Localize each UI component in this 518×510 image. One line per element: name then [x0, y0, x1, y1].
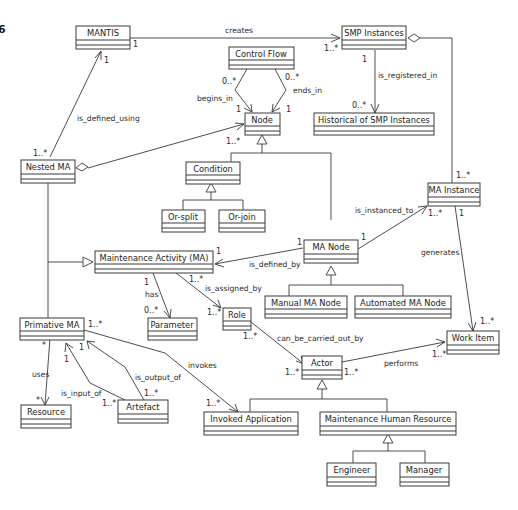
edge-gen-ma-node: [289, 285, 403, 296]
mult-defined-using-dst: 1: [104, 56, 109, 65]
class-name: Role: [228, 310, 246, 320]
label-is-output-of: is_output_of: [135, 373, 181, 382]
mult-nested-node-dst: 1..*: [226, 137, 240, 146]
edge-gen-condition: [183, 200, 243, 210]
label-can-be-carried-out-by: can_be_carried_out_by: [277, 334, 364, 343]
mult-generates-src: 1: [459, 209, 464, 218]
class-smp-instances[interactable]: SMP Instances: [342, 26, 406, 49]
mult-has-src: 1: [144, 278, 149, 287]
class-work-item[interactable]: Work Item: [447, 331, 499, 354]
class-maintenance-human-resource[interactable]: Maintenance Human Resource: [320, 412, 456, 435]
class-mantis[interactable]: MANTIS: [76, 26, 130, 49]
class-name: Manager: [406, 465, 443, 475]
mult-creates-dst: 1..*: [324, 44, 338, 53]
label-is-registered-in: is_registered_in: [378, 71, 437, 80]
class-automated-ma-node[interactable]: Automated MA Node: [355, 296, 451, 318]
class-name: Maintenance Activity (MA): [99, 253, 208, 263]
mult-invokes-dst: 1..*: [206, 399, 220, 408]
class-name: MANTIS: [87, 28, 119, 38]
class-primative-ma[interactable]: Primative MA: [20, 318, 84, 340]
class-nested-ma[interactable]: Nested MA: [21, 160, 75, 183]
class-artefact[interactable]: Artefact: [118, 400, 168, 423]
class-name: Condition: [193, 164, 233, 174]
label-is-defined-using: is_defined_using: [77, 114, 140, 123]
class-control-flow[interactable]: Control Flow: [229, 47, 294, 69]
mult-begins-dst: 1: [236, 105, 241, 114]
mult-instanced-dst: 1..*: [428, 209, 442, 218]
class-name: Control Flow: [235, 49, 287, 59]
arrowhead-is-defined-using: [95, 51, 101, 60]
mult-has-dst: 0..*: [144, 306, 158, 315]
uml-class-diagram: 6: [0, 0, 518, 510]
mult-output-dst: 1: [79, 343, 84, 352]
class-name: SMP Instances: [344, 28, 404, 38]
class-name: Node: [251, 115, 273, 125]
edge-nested-node: [88, 124, 244, 168]
class-parameter[interactable]: Parameter: [148, 318, 197, 340]
class-manual-ma-node[interactable]: Manual MA Node: [265, 296, 347, 318]
class-name: Work Item: [452, 333, 495, 343]
class-invoked-application[interactable]: Invoked Application: [204, 412, 298, 435]
mult-ends-src: 0..*: [285, 73, 299, 82]
mult-carried-dst: 1..*: [285, 368, 299, 377]
generalization-triangle-ma-node: [326, 266, 336, 275]
class-historical-smp-instances[interactable]: Historical of SMP Instances: [314, 113, 434, 135]
label-is-defined-by: is_defined_by: [249, 260, 301, 269]
label-creates: creates: [225, 26, 253, 35]
class-actor[interactable]: Actor: [302, 356, 342, 379]
figure-number-fragment: 6: [0, 23, 6, 36]
class-name: Actor: [311, 358, 333, 368]
mult-ends-dst: 1: [286, 105, 291, 114]
edge-ends-in: [272, 69, 286, 112]
generalization-triangle-actor: [317, 380, 327, 389]
mult-assigned-src: 1..*: [189, 275, 203, 284]
class-name: Resource: [27, 407, 65, 417]
class-ma-instance[interactable]: MA Instance: [428, 183, 480, 206]
label-ends-in: ends_in: [293, 86, 322, 95]
mult-registered-src: 1: [362, 55, 367, 64]
mult-performs-src: 1..*: [344, 368, 358, 377]
mult-uses-src: *: [42, 341, 46, 350]
mult-invokes-src: 1..*: [88, 320, 102, 329]
class-name: Primative MA: [25, 320, 80, 330]
class-or-join[interactable]: Or-join: [219, 210, 265, 232]
mult-output-src: 1..*: [144, 389, 158, 398]
edge-generates: [455, 206, 473, 331]
class-name: Engineer: [334, 465, 372, 475]
label-is-assigned-by: is_assigned_by: [205, 284, 262, 293]
mult-generates-dst: 1..*: [480, 317, 494, 326]
mult-smp-ma-instance-dst: 1..*: [456, 171, 470, 180]
class-role[interactable]: Role: [223, 308, 251, 330]
label-performs: performs: [384, 359, 418, 368]
class-resource[interactable]: Resource: [21, 405, 71, 428]
class-manager[interactable]: Manager: [400, 463, 449, 486]
mult-uses-dst: *: [36, 396, 40, 405]
class-name: Nested MA: [26, 162, 71, 172]
class-maintenance-activity[interactable]: Maintenance Activity (MA): [95, 251, 213, 273]
label-has: has: [145, 290, 158, 299]
class-or-split[interactable]: Or-split: [162, 210, 205, 232]
class-engineer[interactable]: Engineer: [327, 463, 376, 486]
mult-defined-by-dst: 1: [216, 247, 221, 256]
edge-smp-ma-instance: [420, 38, 452, 183]
mult-instanced-src: 1: [361, 233, 366, 242]
class-name: Invoked Application: [210, 414, 292, 424]
mult-creates-src: 1: [133, 40, 138, 49]
class-name: Manual MA Node: [271, 298, 341, 308]
class-name: Parameter: [150, 320, 194, 330]
mult-assigned-dst: 1..*: [207, 308, 221, 317]
class-name: Maintenance Human Resource: [325, 414, 452, 424]
mult-input-dst: 1: [64, 355, 69, 364]
label-invokes: invokes: [188, 361, 217, 370]
edge-is-defined-using: [50, 51, 101, 157]
label-generates: generates: [421, 248, 459, 257]
class-name: Artefact: [126, 402, 160, 412]
class-ma-node[interactable]: MA Node: [304, 240, 358, 263]
mult-input-src: 1..*: [102, 399, 116, 408]
class-node[interactable]: Node: [245, 113, 280, 135]
class-name: Automated MA Node: [360, 298, 446, 308]
aggregation-diamond-nested: [76, 163, 88, 171]
mult-registered-dst: 0..*: [352, 101, 366, 110]
edge-gen-actor: [250, 399, 387, 412]
class-condition[interactable]: Condition: [186, 162, 240, 184]
